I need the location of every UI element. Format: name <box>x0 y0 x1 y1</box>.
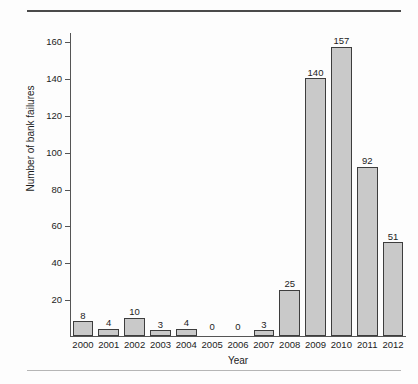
bar[interactable]: 8 <box>73 321 94 336</box>
x-tick-label: 2001 <box>98 340 119 350</box>
x-tick-label: 2000 <box>72 340 93 350</box>
bar[interactable]: 51 <box>383 242 404 336</box>
x-tick-label: 2012 <box>382 340 403 350</box>
bar[interactable]: 10 <box>124 318 145 336</box>
y-tick-mark <box>65 116 70 117</box>
bar-value-label: 8 <box>80 311 85 321</box>
bottom-divider-rule <box>27 370 401 371</box>
bar-value-label: 4 <box>106 318 111 328</box>
y-tick-label: 60 <box>51 222 62 232</box>
bar[interactable]: 3 <box>254 330 275 336</box>
bar-slot: 0 <box>202 33 223 337</box>
x-tick-label: 2002 <box>124 340 145 350</box>
x-tick-label: 2005 <box>202 340 223 350</box>
x-tick-label: 2003 <box>150 340 171 350</box>
y-tick-label: 160 <box>46 37 62 47</box>
bar-slot: 157 <box>331 33 352 337</box>
plot-area: 20406080100120140160 8410340032514015792… <box>70 33 406 337</box>
bar-slot: 10 <box>124 33 145 337</box>
bar-value-label: 3 <box>261 320 266 330</box>
bar-value-label: 10 <box>129 307 140 317</box>
y-tick-label: 140 <box>46 74 62 84</box>
y-tick-mark <box>65 300 70 301</box>
x-tick-label: 2009 <box>305 340 326 350</box>
bank-failures-bar-chart: 20406080100120140160 8410340032514015792… <box>0 0 418 384</box>
y-tick-mark <box>65 79 70 80</box>
bar-value-label: 157 <box>333 36 349 46</box>
bar[interactable]: 4 <box>98 329 119 336</box>
y-tick-label: 80 <box>51 185 62 195</box>
y-tick-label: 120 <box>46 111 62 121</box>
top-divider-rule <box>27 10 401 12</box>
y-tick-mark <box>65 190 70 191</box>
y-tick-mark <box>65 263 70 264</box>
bar-slot: 4 <box>98 33 119 337</box>
bar-value-label: 140 <box>308 68 324 78</box>
y-tick-label: 100 <box>46 148 62 158</box>
bar-value-label: 25 <box>284 279 295 289</box>
bar-value-label: 0 <box>209 322 214 332</box>
x-axis-title: Year <box>70 355 406 366</box>
bar[interactable]: 3 <box>150 330 171 336</box>
bar-value-label: 3 <box>158 320 163 330</box>
y-tick-mark <box>65 42 70 43</box>
bar-slot: 8 <box>73 33 94 337</box>
bar-value-label: 0 <box>235 322 240 332</box>
bar[interactable]: 25 <box>279 290 300 336</box>
bar-slot: 4 <box>176 33 197 337</box>
y-tick-label: 20 <box>51 295 62 305</box>
bar-slot: 51 <box>383 33 404 337</box>
bar-slot: 140 <box>305 33 326 337</box>
y-axis-title: Number of bank failures <box>25 49 36 229</box>
x-tick-label: 2007 <box>253 340 274 350</box>
x-tick-label: 2008 <box>279 340 300 350</box>
bar-value-label: 51 <box>388 232 399 242</box>
bar-slot: 0 <box>228 33 249 337</box>
y-axis-spine <box>70 33 71 337</box>
bar-slot: 92 <box>357 33 378 337</box>
bar-slot: 3 <box>150 33 171 337</box>
bar-value-label: 4 <box>184 318 189 328</box>
x-tick-label: 2006 <box>227 340 248 350</box>
bar[interactable]: 140 <box>305 78 326 336</box>
bar[interactable]: 92 <box>357 167 378 337</box>
bar[interactable]: 4 <box>176 329 197 336</box>
bar-value-label: 92 <box>362 156 373 166</box>
y-tick-label: 40 <box>51 259 62 269</box>
x-tick-label: 2010 <box>331 340 352 350</box>
bar[interactable]: 157 <box>331 47 352 336</box>
y-tick-mark <box>65 226 70 227</box>
x-tick-label: 2004 <box>176 340 197 350</box>
x-tick-label: 2011 <box>357 340 377 350</box>
bar-slot: 25 <box>279 33 300 337</box>
y-tick-mark <box>65 153 70 154</box>
bar-slot: 3 <box>254 33 275 337</box>
